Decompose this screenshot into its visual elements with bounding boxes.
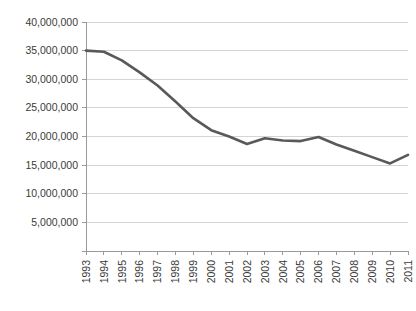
y-tick-label: 40,000,000: [25, 16, 78, 28]
x-tick-label: 2003: [259, 260, 271, 284]
x-tick-group: [86, 251, 408, 255]
y-tick-label: 15,000,000: [25, 159, 78, 171]
x-tick-label: 2005: [294, 260, 306, 284]
x-tick-label: 1999: [187, 260, 199, 284]
y-tick-label: 20,000,000: [25, 130, 78, 142]
x-tick-label: 2010: [384, 260, 396, 284]
x-tick-label: 2011: [402, 260, 414, 283]
x-tick-label: 1995: [116, 260, 128, 284]
y-tick-label: 10,000,000: [25, 187, 78, 199]
x-tick-label: 2009: [366, 260, 378, 284]
data-series-line: [86, 51, 408, 164]
x-tick-label: 2002: [241, 260, 253, 284]
x-tick-label: 2004: [277, 260, 289, 284]
x-tick-label: 1996: [133, 260, 145, 284]
y-axis-labels: 5,000,00010,000,00015,000,00020,000,0002…: [25, 16, 78, 228]
x-tick-label: 2007: [330, 260, 342, 284]
y-tick-group: [82, 22, 86, 251]
x-tick-label: 2001: [223, 260, 235, 284]
y-tick-label: 25,000,000: [25, 101, 78, 113]
x-tick-label: 1993: [80, 260, 92, 284]
x-tick-label: 2006: [312, 260, 324, 284]
y-tick-label: 30,000,000: [25, 73, 78, 85]
x-axis-labels: 1993199419951996199719981999200020012002…: [80, 260, 414, 284]
y-tick-label: 5,000,000: [31, 216, 78, 228]
x-tick-label: 2000: [205, 260, 217, 284]
x-tick-label: 1998: [169, 260, 181, 284]
gridline-group: [86, 22, 408, 222]
chart-canvas: 5,000,00010,000,00015,000,00020,000,0002…: [0, 0, 416, 311]
x-tick-label: 2008: [348, 260, 360, 284]
y-tick-label: 35,000,000: [25, 44, 78, 56]
x-tick-label: 1994: [98, 260, 110, 284]
line-chart: 5,000,00010,000,00015,000,00020,000,0002…: [0, 0, 416, 311]
x-tick-label: 1997: [151, 260, 163, 284]
